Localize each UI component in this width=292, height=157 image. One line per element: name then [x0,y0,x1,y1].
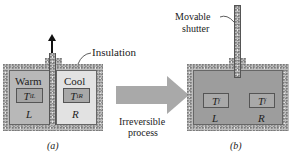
arrow-head-icon [167,76,189,114]
left-side-label-b: L [212,112,218,124]
temp-box-left-final: Tf [203,93,229,108]
shutter-a [49,53,56,125]
temp-box-right-initial: TiR [63,88,90,103]
shutter-label-line1: Movable [175,12,211,22]
right-side-label-a: R [72,108,79,120]
temp-box-left-initial: TiL [16,88,43,103]
left-side-label-a: L [26,108,32,120]
caption-a: (a) [47,140,59,151]
caption-b: (b) [230,140,242,151]
insulation-label: Insulation [92,47,136,58]
process-label-line1: Irreversible [119,117,165,127]
temp-box-right-final: Tf [249,93,275,108]
shutter-leader-line [219,12,237,26]
arrow-body [116,86,168,104]
up-arrow-head-icon [48,34,56,41]
cool-label: Cool [64,76,85,87]
warm-label: Warm [15,76,42,87]
process-label-line2: process [128,128,158,138]
up-arrow-icon [51,40,53,53]
right-side-label-b: R [258,112,265,124]
shutter-label-line2: shutter [182,24,209,34]
